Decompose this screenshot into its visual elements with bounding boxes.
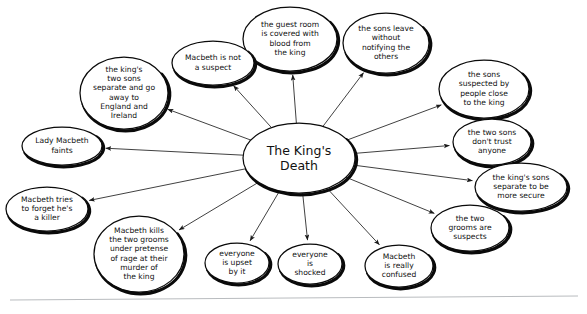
node-kings-sons-separate-secure[interactable]: the king's sonsseparate to bemore secure [475, 163, 569, 213]
node-guest-room-blood[interactable]: the guest roomis covered withblood fromt… [243, 7, 339, 73]
nodes-layer: the guest roomis covered withblood fromt… [6, 7, 569, 294]
node-kings-sons-separate-england-ireland[interactable]: the king'stwo sonsseparate and goaway to… [80, 57, 170, 131]
node-outline [80, 57, 168, 129]
edge-center-to-everyone-shocked [303, 193, 308, 240]
node-macbeth-not-suspect[interactable]: Macbeth is nota suspect [172, 41, 256, 87]
node-lady-macbeth-faints[interactable]: Lady Macbethfaints [22, 127, 104, 167]
node-outline [22, 127, 102, 165]
node-outline [278, 244, 342, 284]
node-sons-suspected-by-people[interactable]: the sonssuspected bypeople closeto the k… [439, 60, 531, 120]
node-sons-leave-without-notifying[interactable]: the sons leavewithoutnotifying theothers [343, 13, 431, 75]
edge-center-to-guest-room-blood [293, 75, 297, 123]
node-center[interactable]: The King'sDeath [243, 123, 357, 195]
node-two-grooms-suspects[interactable]: the twogrooms aresuspects [431, 205, 511, 253]
edge-center-to-sons-leave-without-notifying [323, 73, 364, 127]
edge-center-to-two-sons-dont-trust [355, 146, 450, 154]
edge-center-to-everyone-upset [250, 191, 279, 241]
baseline-rule [10, 296, 578, 300]
edge-center-to-kings-sons-separate-secure [354, 165, 473, 180]
node-two-sons-dont-trust[interactable]: the two sonsdon't trustanyone [453, 119, 533, 167]
edge-center-to-sons-suspected-by-people [347, 105, 441, 140]
node-outline [94, 216, 184, 292]
node-everyone-upset[interactable]: everyoneis upsetby it [205, 243, 271, 285]
edge-center-to-kings-sons-separate-england-ireland [168, 109, 251, 140]
node-macbeth-kills-grooms[interactable]: Macbeth killsthe two groomsunder pretens… [94, 216, 186, 294]
edge-center-to-macbeth-really-confused [327, 188, 379, 245]
edge-center-to-macbeth-not-suspect [234, 86, 272, 128]
node-outline [453, 119, 531, 165]
node-outline [439, 60, 529, 118]
node-outline [431, 205, 509, 251]
node-outline [172, 41, 254, 85]
edge-center-to-two-grooms-suspects [346, 177, 434, 213]
node-outline [475, 163, 567, 211]
node-outline [343, 13, 429, 73]
node-macbeth-really-confused[interactable]: Macbethis reallyconfused [365, 245, 435, 289]
node-macbeth-forget-killer[interactable]: Macbeth triesto forget he'sa killer [6, 187, 90, 233]
node-outline [243, 123, 355, 193]
node-outline [6, 187, 88, 231]
node-everyone-shocked[interactable]: everyoneisshocked [278, 244, 344, 286]
node-outline [365, 245, 433, 287]
node-outline [243, 7, 337, 71]
node-outline [205, 243, 269, 283]
mind-map-canvas: the guest roomis covered withblood fromt… [0, 0, 587, 314]
edge-center-to-macbeth-forget-killer [89, 169, 245, 201]
edge-center-to-macbeth-kills-grooms [179, 182, 258, 230]
edge-center-to-lady-macbeth-faints [106, 148, 243, 155]
